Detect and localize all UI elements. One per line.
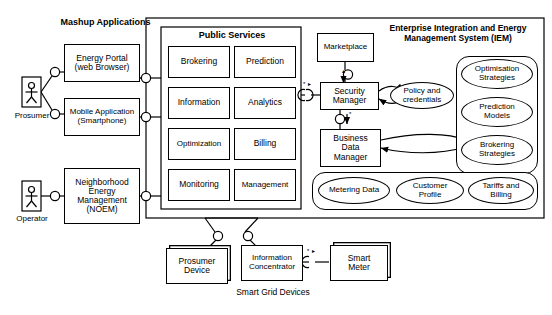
device-information-concentrator-label: Information Concentrator bbox=[242, 246, 302, 280]
datastore-brokering-strategies[interactable]: Brokering Strategies bbox=[461, 135, 533, 165]
service-prediction-label: Prediction bbox=[235, 47, 295, 77]
datastore-policy-credentials-label: Policy and credentials bbox=[391, 83, 453, 108]
svg-text:*: * bbox=[307, 248, 310, 254]
datastore-customer-profile-label: Customer Profile bbox=[397, 178, 463, 203]
service-monitoring[interactable]: Monitoring bbox=[168, 169, 230, 201]
component-marketplace-label: Marketplace bbox=[318, 34, 373, 61]
public-services-caption: Public Services bbox=[171, 29, 293, 42]
service-monitoring-label: Monitoring bbox=[169, 170, 229, 200]
service-optimization-label: Optimization bbox=[169, 129, 229, 159]
service-billing-label: Billing bbox=[235, 129, 295, 159]
mashup-applications-caption: Mashup Applications bbox=[58, 10, 153, 34]
device-smart-meter-label: Smart Meter bbox=[331, 246, 387, 280]
service-information-label: Information bbox=[169, 88, 229, 118]
service-management-label: Management bbox=[235, 170, 295, 200]
svg-text:▸: ▸ bbox=[308, 81, 311, 87]
datastore-metering-data[interactable]: Metering Data bbox=[318, 177, 390, 204]
component-energy-portal-label: Energy Portal (web Browser) bbox=[65, 45, 139, 81]
component-noem-label: Neighborhood Energy Management (NOEM) bbox=[65, 169, 139, 223]
svg-text:▸: ▸ bbox=[312, 248, 315, 254]
datastore-optimisation-strategies[interactable]: Optimisation Strategies bbox=[461, 59, 533, 89]
service-optimization[interactable]: Optimization bbox=[168, 128, 230, 160]
component-security-manager[interactable]: Security Manager bbox=[320, 82, 379, 110]
service-brokering-label: Brokering bbox=[169, 47, 229, 77]
datastore-metering-data-label: Metering Data bbox=[319, 178, 389, 203]
component-business-data-manager-label: Business Data Manager bbox=[321, 130, 380, 166]
service-prediction[interactable]: Prediction bbox=[234, 46, 296, 78]
component-security-manager-label: Security Manager bbox=[321, 83, 378, 109]
service-brokering[interactable]: Brokering bbox=[168, 46, 230, 78]
component-energy-portal[interactable]: Energy Portal (web Browser) bbox=[64, 44, 140, 82]
iem-caption: Enterprise Integration and Energy Manage… bbox=[376, 22, 540, 46]
component-marketplace[interactable]: Marketplace bbox=[317, 33, 374, 62]
device-prosumer-device[interactable]: Prosumer Device bbox=[166, 248, 228, 284]
architecture-diagram: * ▸ * ▸ ▴ * Mashup Applications Public S… bbox=[0, 0, 552, 315]
device-information-concentrator[interactable]: Information Concentrator bbox=[241, 245, 303, 281]
datastore-prediction-models[interactable]: Prediction Models bbox=[461, 97, 533, 127]
datastore-tariffs-billing-label: Tariffs and Billing bbox=[469, 178, 533, 203]
service-analytics-label: Analytics bbox=[235, 88, 295, 118]
service-billing[interactable]: Billing bbox=[234, 128, 296, 160]
service-information[interactable]: Information bbox=[168, 87, 230, 119]
component-business-data-manager[interactable]: Business Data Manager bbox=[320, 129, 381, 167]
svg-text:▴: ▴ bbox=[342, 68, 345, 74]
datastore-customer-profile[interactable]: Customer Profile bbox=[396, 177, 464, 204]
service-analytics[interactable]: Analytics bbox=[234, 87, 296, 119]
datastore-prediction-models-label: Prediction Models bbox=[462, 98, 532, 126]
datastore-optimisation-strategies-label: Optimisation Strategies bbox=[462, 60, 532, 88]
device-prosumer-device-label: Prosumer Device bbox=[167, 249, 227, 283]
datastore-policy-credentials[interactable]: Policy and credentials bbox=[390, 82, 454, 109]
component-mobile-application[interactable]: Mobile Application (Smartphone) bbox=[64, 98, 140, 136]
device-smart-meter[interactable]: Smart Meter bbox=[330, 245, 388, 281]
component-mobile-application-label: Mobile Application (Smartphone) bbox=[65, 99, 139, 135]
component-noem[interactable]: Neighborhood Energy Management (NOEM) bbox=[64, 168, 140, 224]
datastore-tariffs-billing[interactable]: Tariffs and Billing bbox=[468, 177, 534, 204]
service-management[interactable]: Management bbox=[234, 169, 296, 201]
datastore-brokering-strategies-label: Brokering Strategies bbox=[462, 136, 532, 164]
